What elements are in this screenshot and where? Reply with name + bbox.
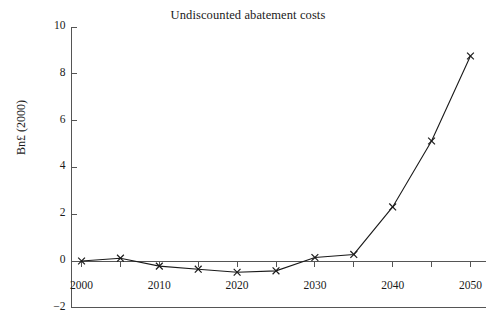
series-line	[82, 56, 471, 272]
x-tick-label: 2000	[59, 279, 105, 291]
data-point-marker	[467, 53, 474, 60]
data-point-markers	[78, 53, 474, 276]
y-tick-label: 10	[32, 19, 66, 31]
x-tick-label: 2020	[214, 279, 260, 291]
data-point-marker	[428, 138, 435, 145]
y-tick-label: 6	[32, 113, 66, 125]
x-tick-label: 2030	[292, 279, 338, 291]
x-tick-label: 2040	[370, 279, 416, 291]
tick-marks	[72, 27, 471, 308]
data-point-marker	[389, 204, 396, 211]
x-tick-label: 2010	[136, 279, 182, 291]
y-tick-label: 4	[32, 159, 66, 171]
y-tick-label: 8	[32, 66, 66, 78]
data-series-line	[82, 56, 471, 272]
chart-figure: Undiscounted abatement costs Bn£ (2000) …	[0, 0, 496, 330]
y-tick-label: 0	[32, 253, 66, 265]
x-tick-label: 2050	[447, 279, 493, 291]
y-tick-label: 2	[32, 206, 66, 218]
axes	[72, 27, 486, 308]
y-tick-label: −2	[32, 300, 66, 312]
